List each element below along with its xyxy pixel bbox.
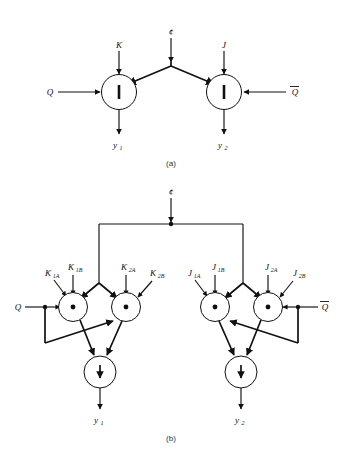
diagram-a: ¢ K J Q Q y 1 y 2 (a): [47, 27, 299, 168]
q-input-label-a: Q: [47, 87, 54, 97]
y1-output-sub-b: 1: [101, 420, 104, 426]
k2a-label: K: [120, 262, 128, 272]
diagram-b: ¢ K 1A K 1B K 2A K 2B J 1A J 1B J: [15, 187, 329, 443]
j2a-sub: 2A: [271, 267, 278, 273]
k2b-label: K: [149, 268, 157, 278]
caption-a: (a): [166, 159, 176, 168]
j1a-wire: [195, 280, 207, 296]
j2b-sub: 2B: [299, 273, 306, 279]
k1a-sub: 1A: [53, 273, 60, 279]
and-dot-icon-k1: [71, 305, 76, 310]
k1b-label: K: [67, 262, 75, 272]
and-k1-to-nor-left-wire: [80, 320, 94, 355]
k1a-wire: [54, 280, 66, 296]
j1a-sub: 1A: [194, 273, 201, 279]
y1-output-sub-a: 1: [120, 145, 123, 151]
j2b-wire: [280, 281, 293, 297]
clock-label-b: ¢: [169, 187, 174, 197]
k1b-sub: 1B: [76, 267, 83, 273]
clock-fork-k2-b: [99, 283, 117, 298]
clock-branch-right-a: [171, 66, 214, 84]
y1-output-label-a: y: [112, 140, 117, 150]
clock-branch-left-a: [128, 66, 171, 84]
j1b-sub: 1B: [218, 267, 225, 273]
y2-output-sub-b: 2: [242, 420, 245, 426]
k2b-wire: [138, 281, 152, 297]
y2-output-label-b: y: [234, 415, 239, 425]
qbar-to-and-j1-wire: [230, 321, 298, 343]
and-dot-icon-k2: [124, 305, 129, 310]
k-input-label-a: K: [115, 40, 123, 50]
qbar-input-label-b: Q: [322, 302, 329, 312]
y2-output-label-a: y: [217, 140, 222, 150]
q-input-label-b: Q: [15, 302, 22, 312]
q-to-and-k2-wire: [45, 321, 113, 343]
j1b-label: J: [212, 262, 217, 272]
j2b-label: J: [293, 268, 298, 278]
and-j1-to-nor-right-wire: [219, 321, 234, 355]
clock-fork-k1-b: [81, 283, 99, 298]
k2b-sub: 2B: [158, 273, 165, 279]
figure-container: ¢ K J Q Q y 1 y 2 (a): [0, 0, 343, 450]
and-dot-icon-j2: [266, 305, 271, 310]
j1a-label: J: [188, 268, 193, 278]
y2-output-sub-a: 2: [225, 145, 228, 151]
and-k2-to-nor-left-wire: [107, 321, 122, 355]
qbar-input-label-a: Q: [292, 87, 299, 97]
logic-diagram-svg: ¢ K J Q Q y 1 y 2 (a): [0, 0, 343, 450]
j2a-label: J: [265, 262, 270, 272]
clock-fork-j1-b: [225, 283, 243, 298]
and-j2-to-nor-right-wire: [247, 320, 261, 355]
y1-output-label-b: y: [93, 415, 98, 425]
clock-label-a: ¢: [169, 27, 174, 37]
and-dot-icon-j1: [213, 305, 218, 310]
k1a-label: K: [44, 268, 52, 278]
caption-b: (b): [166, 434, 176, 443]
j-input-label-a: J: [222, 40, 227, 50]
k2a-sub: 2A: [129, 267, 136, 273]
